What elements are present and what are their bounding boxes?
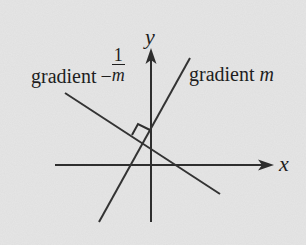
label-gradient-neg-reciprocal: gradient− 1 m — [31, 64, 125, 86]
fraction-denominator: m — [112, 65, 125, 84]
label-neg-recip-sign: − — [101, 65, 112, 87]
label-gradient-m-var: m — [260, 63, 274, 85]
diagram-canvas: y x gradient m gradient− 1 m — [0, 0, 306, 245]
fraction-numerator: 1 — [112, 46, 125, 65]
y-axis-label: y — [145, 26, 155, 48]
label-neg-recip-prefix: gradient — [31, 65, 97, 87]
label-gradient-m-prefix: gradient — [189, 63, 255, 85]
x-axis-label: x — [279, 153, 289, 175]
label-neg-recip-fraction: 1 m — [112, 46, 125, 84]
label-gradient-m: gradient m — [189, 64, 274, 84]
